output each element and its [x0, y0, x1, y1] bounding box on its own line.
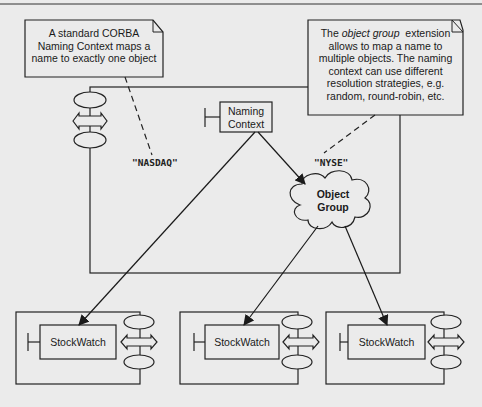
note-corba-line: A standard CORBA — [25, 27, 163, 40]
stockwatch-label-1: StockWatch — [40, 336, 116, 349]
note-object-group-line: allows to map a name to — [308, 40, 463, 53]
note-object-group-text: The object group extension allows to map… — [308, 27, 463, 102]
port-double-arrow-icon — [73, 113, 107, 129]
arrow-nyse-binding — [258, 132, 305, 184]
note-corba-line: name to exactly one object — [25, 52, 163, 65]
object-group-label: Object Group — [300, 188, 366, 213]
object-group-term: object group — [342, 27, 400, 39]
naming-context-label: Naming Context — [220, 105, 272, 130]
arrow-group-to-server-2 — [244, 226, 318, 325]
arrow-group-to-server-3 — [345, 226, 387, 325]
stockwatch-label-2: StockWatch — [205, 336, 279, 349]
note-object-group-line: resolution strategies, e.g. — [308, 77, 463, 90]
note-object-group-line: The object group extension — [308, 27, 463, 40]
port-ellipse-icon — [74, 132, 106, 148]
note-object-group-line: context can use different — [308, 65, 463, 78]
port-ellipse-icon — [74, 92, 106, 108]
stockwatch-label-3: StockWatch — [348, 336, 425, 349]
note-anchor-nasdaq — [125, 77, 152, 155]
note-object-group-line: multiple objects. The naming — [308, 52, 463, 65]
note-object-group-line: random, round-robin, etc. — [308, 90, 463, 103]
note-corba-line: Naming Context maps a — [25, 40, 163, 53]
note-anchor-nyse — [324, 115, 375, 153]
binding-nasdaq-label: "NASDAQ" — [132, 157, 178, 170]
binding-nyse-label: "NYSE" — [314, 157, 348, 170]
note-corba-text: A standard CORBA Naming Context maps a n… — [25, 27, 163, 65]
